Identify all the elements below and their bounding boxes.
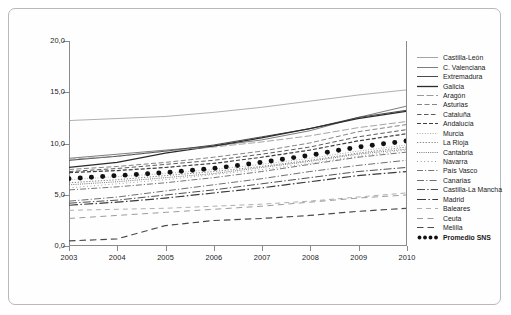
legend-swatch-icon xyxy=(417,138,438,147)
legend-item[interactable]: La Rioja xyxy=(417,138,511,147)
legend-item[interactable]: País Vasco xyxy=(417,166,511,175)
series-line xyxy=(69,90,406,121)
legend-item-label: Melilla xyxy=(443,223,463,232)
x-tick xyxy=(310,246,311,251)
legend: Castilla-LeónC. ValencianaExtremaduraGal… xyxy=(417,53,511,242)
x-tick xyxy=(359,246,360,251)
legend-swatch-icon xyxy=(417,72,438,81)
legend-item[interactable]: Promedio SNS xyxy=(417,232,511,241)
legend-swatch-icon xyxy=(417,214,438,223)
y-tick-label: 0,0 xyxy=(31,241,65,250)
series-line xyxy=(69,195,406,218)
x-tick-label: 2006 xyxy=(194,253,234,262)
x-tick-label: 2007 xyxy=(242,253,282,262)
legend-swatch-icon xyxy=(417,119,438,128)
legend-item-label: País Vasco xyxy=(443,166,477,175)
legend-item-label: Baleares xyxy=(443,204,470,213)
legend-item[interactable]: Canarias xyxy=(417,176,511,185)
legend-swatch-icon xyxy=(417,166,438,175)
legend-item[interactable]: Murcia xyxy=(417,129,511,138)
y-tick-label: 20,0 xyxy=(31,36,65,45)
x-tick-label: 2008 xyxy=(290,253,330,262)
x-tick-label: 2010 xyxy=(387,253,427,262)
legend-item[interactable]: Andalucía xyxy=(417,119,511,128)
legend-swatch-icon xyxy=(417,110,438,119)
legend-swatch-icon xyxy=(417,129,438,138)
legend-item-label: Galicia xyxy=(443,82,464,91)
x-tick-label: 2004 xyxy=(97,253,137,262)
x-tick xyxy=(262,246,263,251)
plot-area xyxy=(69,41,407,246)
legend-swatch-icon xyxy=(417,233,438,242)
legend-swatch-icon xyxy=(417,195,438,204)
legend-item[interactable]: Aragón xyxy=(417,91,511,100)
series-line xyxy=(69,172,406,206)
legend-item-label: Andalucía xyxy=(443,119,474,128)
series-line xyxy=(69,208,406,241)
legend-swatch-icon xyxy=(417,204,438,213)
legend-item[interactable]: Castilla-La Mancha xyxy=(417,185,511,194)
legend-item-label: Navarra xyxy=(443,157,468,166)
legend-swatch-icon xyxy=(417,100,438,109)
legend-item[interactable]: Asturias xyxy=(417,100,511,109)
legend-swatch-icon xyxy=(417,91,438,100)
x-tick-label: 2005 xyxy=(146,253,186,262)
legend-swatch-icon xyxy=(417,223,438,232)
legend-swatch-icon xyxy=(417,176,438,185)
series-line xyxy=(69,111,406,167)
y-tick-label: 5,0 xyxy=(31,190,65,199)
legend-item-label: Castilla-La Mancha xyxy=(443,185,502,194)
legend-item-label: Madrid xyxy=(443,195,464,204)
legend-item-label: Canarias xyxy=(443,176,471,185)
series-line xyxy=(69,152,406,190)
legend-item-label: Castilla-León xyxy=(443,53,483,62)
x-tick xyxy=(214,246,215,251)
legend-item[interactable]: Cantabria xyxy=(417,147,511,156)
legend-swatch-icon xyxy=(417,63,438,72)
legend-item-label: Asturias xyxy=(443,100,468,109)
legend-swatch-icon xyxy=(417,53,438,62)
legend-item-label: C. Valenciana xyxy=(443,63,485,72)
y-tick-label: 15,0 xyxy=(31,87,65,96)
legend-item-label: Extremadura xyxy=(443,72,482,81)
legend-swatch-icon xyxy=(417,82,438,91)
legend-item-label: Cantabria xyxy=(443,148,473,157)
series-lines xyxy=(69,41,406,245)
legend-item[interactable]: Cataluña xyxy=(417,110,511,119)
plot-wrapper: 0,05,010,015,020,0 200320042005200620072… xyxy=(47,29,407,274)
series-line xyxy=(69,110,406,160)
legend-swatch-icon xyxy=(417,157,438,166)
legend-item[interactable]: Ceuta xyxy=(417,213,511,222)
legend-swatch-icon xyxy=(417,185,438,194)
series-line xyxy=(69,125,406,170)
x-tick xyxy=(69,246,70,251)
x-tick xyxy=(166,246,167,251)
legend-item-label: Cataluña xyxy=(443,110,471,119)
legend-item-label: La Rioja xyxy=(443,138,468,147)
x-tick xyxy=(407,246,408,251)
legend-item-label: Ceuta xyxy=(443,214,461,223)
series-line xyxy=(69,106,406,158)
y-tick-label: 10,0 xyxy=(31,139,65,148)
legend-item[interactable]: Extremadura xyxy=(417,72,511,81)
figure-panel: 0,05,010,015,020,0 200320042005200620072… xyxy=(8,8,501,305)
legend-item[interactable]: Melilla xyxy=(417,223,511,232)
x-tick-label: 2009 xyxy=(339,253,379,262)
legend-item[interactable]: Castilla-León xyxy=(417,53,511,62)
legend-item-label: Murcia xyxy=(443,129,464,138)
x-tick-label: 2003 xyxy=(49,253,89,262)
legend-item[interactable]: Navarra xyxy=(417,157,511,166)
legend-item[interactable]: Baleares xyxy=(417,204,511,213)
legend-item[interactable]: Galicia xyxy=(417,81,511,90)
legend-item-label: Promedio SNS xyxy=(443,233,491,242)
legend-item[interactable]: C. Valenciana xyxy=(417,62,511,71)
x-tick xyxy=(117,246,118,251)
legend-item[interactable]: Madrid xyxy=(417,195,511,204)
legend-item-label: Aragón xyxy=(443,91,465,100)
legend-swatch-icon xyxy=(417,148,438,157)
